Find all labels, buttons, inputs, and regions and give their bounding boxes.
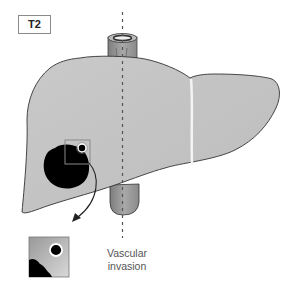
- caption-line-1: Vascular: [97, 247, 157, 260]
- vascular-invasion-caption: Vascular invasion: [97, 247, 157, 273]
- liver: [22, 56, 279, 213]
- falciform-ligament: [191, 79, 192, 165]
- caption-line-2: invasion: [97, 260, 157, 273]
- inferior-vena-cava-bottom: [110, 184, 139, 215]
- invaded-vessel: [78, 144, 86, 152]
- stage-label: T2: [18, 15, 51, 34]
- magnified-inset: [29, 237, 69, 277]
- arrowhead-icon: [72, 213, 81, 222]
